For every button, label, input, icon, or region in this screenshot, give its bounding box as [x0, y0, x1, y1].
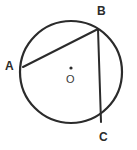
- center-label-o: O: [66, 74, 75, 85]
- chord-ab: [23, 29, 98, 67]
- chord-bc: [98, 29, 101, 122]
- center-point-dot: [69, 66, 72, 69]
- geometry-figure: A B C O: [0, 0, 137, 150]
- circle-outline: [20, 21, 122, 123]
- vertex-label-c: C: [99, 131, 108, 143]
- vertex-label-b: B: [97, 5, 106, 17]
- vertex-label-a: A: [5, 60, 14, 72]
